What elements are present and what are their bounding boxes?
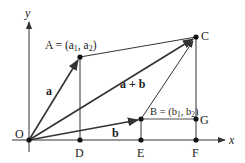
x-axis-label: x [228, 133, 235, 147]
label-C: C [201, 29, 209, 43]
point-O [26, 137, 31, 142]
label-B: B = (b1, b2) [150, 106, 199, 119]
label-D: D [75, 146, 84, 160]
label-vector-sum: a + b [120, 77, 146, 91]
y-axis-label: y [24, 6, 31, 20]
label-vector-a: a [46, 84, 52, 98]
label-A: A = (a1, a2) [45, 39, 97, 53]
label-vector-b: b [112, 126, 119, 140]
vector-a [29, 60, 78, 140]
point-A [77, 54, 82, 59]
label-F: F [192, 146, 199, 160]
vector-addition-diagram: y x O C G D E F A = (a1, a2) B = (b1, b2… [0, 0, 245, 163]
point-D [77, 137, 82, 142]
label-G: G [200, 113, 209, 127]
point-B [138, 116, 143, 121]
point-C [193, 34, 198, 39]
label-O: O [15, 127, 24, 141]
point-F [193, 137, 198, 142]
label-E: E [137, 146, 144, 160]
point-E [138, 137, 143, 142]
